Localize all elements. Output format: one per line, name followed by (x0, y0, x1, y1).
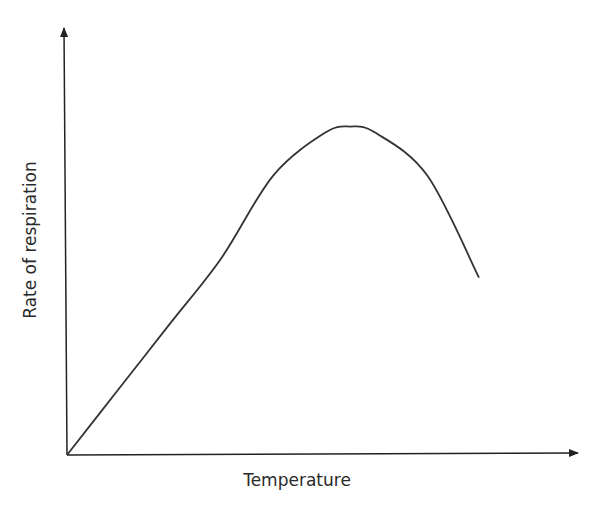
y-axis (64, 28, 67, 455)
x-axis-label: Temperature (0, 470, 594, 490)
x-axis (67, 453, 578, 455)
respiration-curve (67, 126, 479, 455)
line-chart (0, 0, 594, 515)
y-axis-label: Rate of respiration (20, 161, 40, 319)
